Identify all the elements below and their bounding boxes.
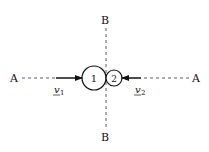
svg-text:1: 1 <box>60 89 64 97</box>
label-a-right: A <box>191 72 201 85</box>
svg-text:2: 2 <box>141 89 145 97</box>
body-1-label: 1 <box>91 73 97 84</box>
label-b-bottom: B <box>101 131 109 144</box>
body-2-label: 2 <box>111 74 117 84</box>
collision-diagram: A A B B 1 2 v 1 v 2 <box>0 0 209 152</box>
velocity-1-label: v 1 <box>53 84 64 97</box>
label-a-left: A <box>9 72 19 85</box>
label-b-top: B <box>101 14 109 27</box>
velocity-2-label: v 2 <box>134 84 145 97</box>
